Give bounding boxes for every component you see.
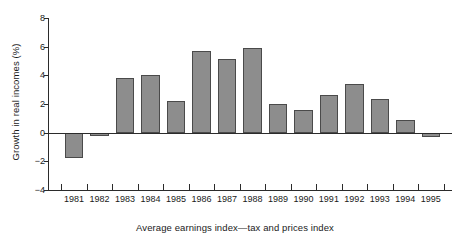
x-tick-label-1985: 1985 — [166, 193, 186, 205]
x-tick-label-1986: 1986 — [191, 193, 211, 205]
x-tick-label-1991: 1991 — [319, 193, 339, 205]
x-tick-mark — [87, 184, 88, 190]
bar-1994 — [396, 120, 414, 132]
x-tick-mark — [240, 184, 241, 190]
y-axis-title: Growth in real incomes (%) — [8, 9, 24, 195]
x-tick-mark — [112, 184, 113, 190]
bar-1984 — [141, 75, 159, 133]
y-tick-label: −4 — [35, 186, 45, 195]
x-tick-label-1992: 1992 — [344, 193, 364, 205]
bar-1988 — [243, 48, 261, 133]
bar-1991 — [320, 95, 338, 133]
bar-1992 — [345, 84, 363, 133]
bar-1983 — [116, 78, 134, 132]
x-axis-line — [48, 190, 452, 191]
x-tick-mark — [444, 184, 445, 190]
bar-1987 — [218, 59, 236, 133]
x-tick-label-1989: 1989 — [268, 193, 288, 205]
bar-1986 — [192, 51, 210, 133]
x-tick-mark — [291, 184, 292, 190]
x-tick-mark — [316, 184, 317, 190]
bar-1989 — [269, 104, 287, 133]
x-tick-label-1988: 1988 — [242, 193, 262, 205]
x-tick-label-1995: 1995 — [421, 193, 441, 205]
y-tick-label: 4 — [40, 71, 45, 80]
x-tick-label-1990: 1990 — [293, 193, 313, 205]
zero-baseline — [48, 133, 452, 134]
bar-chart-figure: Growth in real incomes (%) −4−202468 198… — [0, 0, 470, 247]
x-tick-label-1981: 1981 — [64, 193, 84, 205]
x-tick-mark — [61, 184, 62, 190]
x-axis-title: Average earnings index—tax and prices in… — [0, 222, 470, 233]
plot-area: −4−202468 — [48, 18, 452, 190]
y-tick-label: 8 — [40, 14, 45, 23]
x-tick-label-1984: 1984 — [140, 193, 160, 205]
bar-1985 — [167, 101, 185, 133]
x-tick-label-1987: 1987 — [217, 193, 237, 205]
x-tick-mark — [163, 184, 164, 190]
x-tick-mark — [393, 184, 394, 190]
x-tick-label-1982: 1982 — [89, 193, 109, 205]
x-tick-mark — [367, 184, 368, 190]
x-tick-mark — [214, 184, 215, 190]
x-tick-label-1983: 1983 — [115, 193, 135, 205]
y-tick-label: −2 — [35, 157, 45, 166]
y-tick-label: 0 — [40, 128, 45, 137]
bar-1993 — [371, 99, 389, 133]
x-tick-mark — [418, 184, 419, 190]
x-tick-mark — [265, 184, 266, 190]
bar-1981 — [65, 133, 83, 159]
x-tick-mark — [138, 184, 139, 190]
bar-1990 — [294, 110, 312, 133]
x-tick-label-1994: 1994 — [395, 193, 415, 205]
y-tick-label: 6 — [40, 42, 45, 51]
x-tick-label-1993: 1993 — [370, 193, 390, 205]
y-tick-label: 2 — [40, 100, 45, 109]
x-tick-mark — [189, 184, 190, 190]
x-tick-mark — [342, 184, 343, 190]
